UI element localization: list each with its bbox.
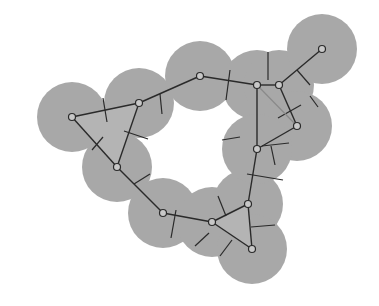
disk-graph-diagram xyxy=(0,0,379,306)
graph-node xyxy=(249,246,256,253)
graph-node xyxy=(294,123,301,130)
graph-node xyxy=(245,201,252,208)
graph-node xyxy=(254,82,261,89)
graph-node xyxy=(160,210,167,217)
graph-node xyxy=(319,46,326,53)
graph-node xyxy=(209,219,216,226)
graph-node xyxy=(254,146,261,153)
graph-node xyxy=(276,82,283,89)
graph-node xyxy=(197,73,204,80)
graph-node xyxy=(69,114,76,121)
graph-node xyxy=(136,100,143,107)
graph-node xyxy=(114,164,121,171)
